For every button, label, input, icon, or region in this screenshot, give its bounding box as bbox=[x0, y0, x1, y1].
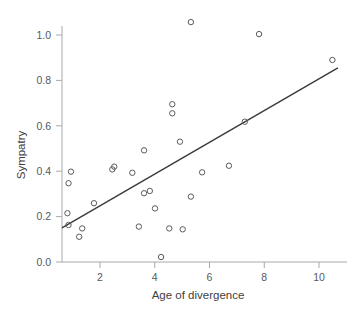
scatter-plot-figure: 0.00.20.40.60.81.0 246810 Sympatry Age o… bbox=[0, 0, 358, 315]
data-point-marker bbox=[188, 194, 193, 199]
x-tick-label: 2 bbox=[97, 271, 103, 283]
y-tick-label: 0.0 bbox=[36, 256, 51, 268]
y-tick-label: 1.0 bbox=[36, 29, 51, 41]
data-point-marker bbox=[91, 201, 96, 206]
sympatry-vs-age-scatter-chart: 0.00.20.40.60.81.0 246810 Sympatry Age o… bbox=[0, 0, 358, 315]
data-point-marker bbox=[226, 163, 231, 168]
data-point-marker bbox=[158, 254, 163, 259]
data-point-marker bbox=[65, 210, 70, 215]
y-tick-label: 0.8 bbox=[36, 74, 51, 86]
y-tick-label: 0.2 bbox=[36, 210, 51, 222]
data-point-marker bbox=[68, 169, 73, 174]
data-point-marker bbox=[180, 227, 185, 232]
data-point-marker bbox=[256, 31, 261, 36]
x-tick-label: 4 bbox=[152, 271, 158, 283]
data-point-marker bbox=[170, 111, 175, 116]
x-axis-tick-marks bbox=[100, 262, 319, 268]
y-tick-label: 0.6 bbox=[36, 120, 51, 132]
regression-trend-line bbox=[62, 68, 338, 228]
y-axis-tick-marks bbox=[56, 35, 62, 262]
data-point-marker bbox=[130, 170, 135, 175]
x-axis-title: Age of divergence bbox=[152, 289, 245, 301]
x-tick-label: 8 bbox=[261, 271, 267, 283]
data-point-marker bbox=[136, 224, 141, 229]
data-point-marker bbox=[167, 226, 172, 231]
data-point-marker bbox=[147, 188, 152, 193]
data-point-marker bbox=[199, 170, 204, 175]
data-point-marker bbox=[177, 139, 182, 144]
y-axis-title: Sympatry bbox=[15, 130, 27, 179]
y-tick-label: 0.4 bbox=[36, 165, 51, 177]
data-point-marker bbox=[66, 181, 71, 186]
data-point-marker bbox=[170, 102, 175, 107]
data-point-marker bbox=[152, 206, 157, 211]
data-point-marker bbox=[76, 234, 81, 239]
x-tick-label: 10 bbox=[313, 271, 325, 283]
data-point-marker bbox=[330, 57, 335, 62]
data-point-marker bbox=[188, 19, 193, 24]
data-point-marker bbox=[141, 191, 146, 196]
x-axis-tick-labels: 246810 bbox=[97, 271, 325, 283]
x-tick-label: 6 bbox=[207, 271, 213, 283]
y-axis-tick-labels: 0.00.20.40.60.81.0 bbox=[36, 29, 51, 268]
scatter-data-points bbox=[65, 19, 335, 259]
data-point-marker bbox=[141, 148, 146, 153]
data-point-marker bbox=[80, 226, 85, 231]
